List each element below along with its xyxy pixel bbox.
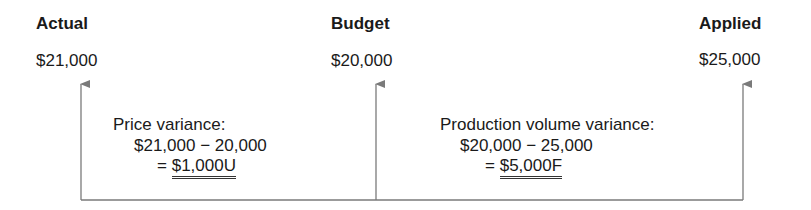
budget-heading: Budget <box>331 14 390 34</box>
volume-variance-result-row: = $5,000F <box>485 156 562 179</box>
actual-heading: Actual <box>36 14 88 34</box>
volume-variance-result: $5,000F <box>500 157 562 179</box>
price-variance-result-row: = $1,000U <box>157 156 236 179</box>
connector-lines <box>0 0 811 210</box>
applied-amount: $25,000 <box>699 50 760 70</box>
applied-heading: Applied <box>699 14 761 34</box>
price-variance-equals: = <box>157 156 167 175</box>
price-variance-result: $1,000U <box>172 157 236 179</box>
volume-variance-formula: $20,000 − 25,000 <box>460 136 593 156</box>
actual-amount: $21,000 <box>36 51 97 71</box>
volume-variance-label: Production volume variance: <box>440 115 655 135</box>
price-variance-label: Price variance: <box>113 115 225 135</box>
volume-variance-equals: = <box>485 156 495 175</box>
price-variance-formula: $21,000 − 20,000 <box>134 136 267 156</box>
budget-amount: $20,000 <box>331 51 392 71</box>
